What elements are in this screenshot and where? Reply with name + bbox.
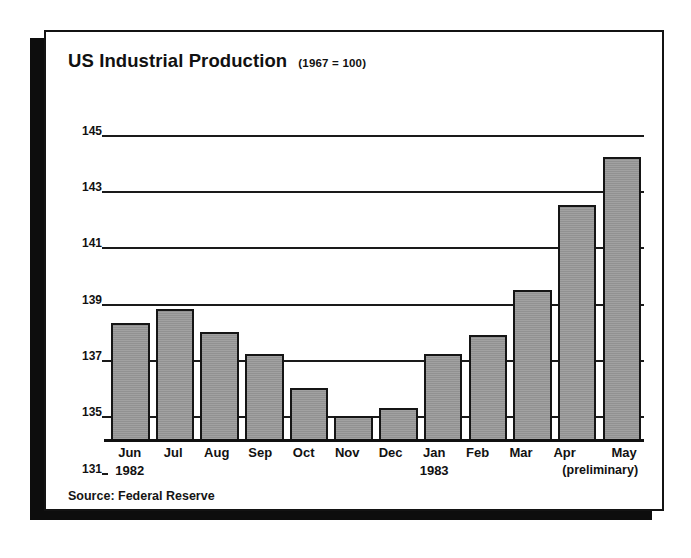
bar-jan	[424, 354, 462, 440]
x-axis-month: Sep	[248, 445, 272, 460]
plot-area: 145143141139137135131	[68, 90, 644, 440]
x-axis-month: Mar	[510, 445, 533, 460]
x-axis-labels: Jun1982JulAugSepOctNovDecJan1983FebMarAp…	[108, 444, 662, 479]
x-axis-label-feb: Feb	[456, 444, 499, 479]
bar-sep	[245, 354, 283, 440]
bar-slot	[599, 90, 644, 440]
x-axis-label-nov: Nov	[325, 444, 368, 479]
x-axis-year: 1982	[108, 462, 151, 480]
bar-jul	[156, 309, 194, 440]
x-axis-month: Apr	[553, 445, 575, 460]
chart-card: US Industrial Production (1967 = 100) 14…	[44, 30, 664, 511]
y-axis-tick-label: 141	[68, 236, 102, 250]
x-axis-label-dec: Dec	[369, 444, 412, 479]
bar-slot	[153, 90, 198, 440]
bar-aug	[200, 332, 238, 440]
x-axis-month: Nov	[335, 445, 360, 460]
bar-apr	[558, 205, 596, 440]
y-axis-tick-label: 143	[68, 180, 102, 194]
bar-slot	[197, 90, 242, 440]
bar-may	[603, 157, 641, 440]
bar-slot	[510, 90, 555, 440]
bar-jun	[111, 323, 149, 440]
y-axis-tick-label: 137	[68, 349, 102, 363]
x-axis-label-jul: Jul	[151, 444, 194, 479]
chart-screenshot: US Industrial Production (1967 = 100) 14…	[0, 0, 691, 558]
bar-slot	[287, 90, 332, 440]
bar-slot	[242, 90, 287, 440]
x-axis-label-aug: Aug	[195, 444, 238, 479]
bar-slot	[465, 90, 510, 440]
x-axis-month: May	[612, 445, 637, 460]
x-axis-month: Dec	[379, 445, 403, 460]
x-axis-month: Jun	[118, 445, 141, 460]
y-axis-tick-label: 131	[68, 462, 102, 476]
x-axis-month: Jan	[423, 445, 445, 460]
chart-header: US Industrial Production (1967 = 100)	[68, 50, 366, 72]
x-axis-line	[104, 439, 644, 442]
bar-dec	[379, 408, 417, 440]
bar-mar	[513, 290, 551, 440]
x-axis-month: Oct	[293, 445, 315, 460]
y-axis-tick-label: 135	[68, 405, 102, 419]
y-axis-tick-label: 139	[68, 293, 102, 307]
x-axis-label-may: May(preliminary)	[586, 444, 662, 479]
bar-slot	[421, 90, 466, 440]
bar-slot	[108, 90, 153, 440]
bar-slot	[331, 90, 376, 440]
x-axis-month: Aug	[204, 445, 229, 460]
bar-feb	[469, 335, 507, 440]
y-axis-tick-label: 145	[68, 124, 102, 138]
x-axis-label-oct: Oct	[282, 444, 325, 479]
bar-oct	[290, 388, 328, 440]
x-axis-month: Jul	[164, 445, 183, 460]
bar-nov	[334, 416, 372, 440]
bars-layer	[108, 90, 644, 440]
page-title: US Industrial Production	[68, 50, 287, 72]
x-axis-month: Feb	[466, 445, 489, 460]
chart-subtitle: (1967 = 100)	[298, 57, 366, 69]
x-axis-year: 1983	[412, 462, 455, 480]
x-axis-note: (preliminary)	[562, 462, 638, 479]
x-axis-label-jan: Jan1983	[412, 444, 455, 479]
bar-slot	[376, 90, 421, 440]
x-axis-label-sep: Sep	[238, 444, 281, 479]
x-axis-label-mar: Mar	[499, 444, 542, 479]
x-axis-label-jun: Jun1982	[108, 444, 151, 479]
source-note: Source: Federal Reserve	[68, 489, 215, 503]
bar-slot	[555, 90, 600, 440]
